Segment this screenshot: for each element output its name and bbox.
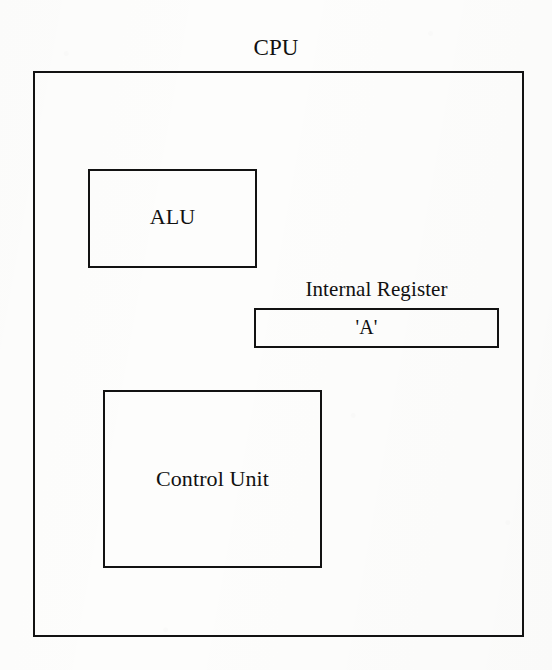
internal-register-value: 'A' [254, 317, 479, 337]
control-unit-label: Control Unit [103, 468, 322, 490]
alu-label: ALU [88, 206, 257, 228]
cpu-title-label: CPU [0, 36, 552, 59]
cpu-block-diagram: CPU ALU Internal Register 'A' Control Un… [0, 0, 552, 670]
internal-register-caption: Internal Register [254, 279, 499, 300]
